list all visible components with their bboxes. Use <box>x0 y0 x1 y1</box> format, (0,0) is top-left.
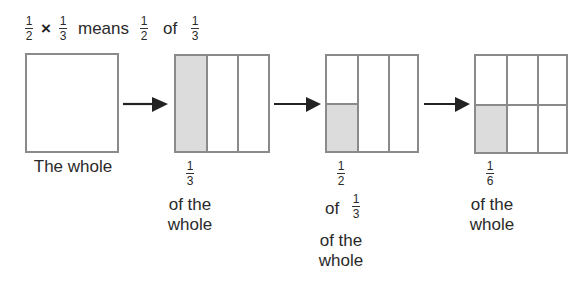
divider <box>357 56 359 151</box>
panel-half-of-third-inner-fraction: 1 3 <box>352 193 360 220</box>
divider <box>388 56 390 151</box>
denominator: 2 <box>141 30 148 42</box>
divider <box>206 56 208 151</box>
numerator: 1 <box>192 15 199 27</box>
arrow-right-icon <box>273 96 323 114</box>
title-word-means: means <box>78 20 129 38</box>
title-fraction-one-third: 1 3 <box>59 15 67 42</box>
panel-one-sixth-square <box>474 54 568 154</box>
divider <box>537 56 539 152</box>
numerator: 1 <box>60 15 67 27</box>
numerator: 1 <box>187 160 194 172</box>
shaded-sixth <box>476 106 506 152</box>
panel-one-third-label-line1: of the <box>160 195 220 215</box>
numerator: 1 <box>26 15 33 27</box>
panel-whole-label: The whole <box>30 157 116 177</box>
denominator: 3 <box>353 208 360 220</box>
divider <box>237 56 239 151</box>
panel-one-third-label-line2: whole <box>160 215 220 235</box>
numerator: 1 <box>141 15 148 27</box>
panel-one-sixth-label-line1: of the <box>462 195 522 215</box>
arrow-right-icon <box>122 96 170 114</box>
shaded-third <box>176 56 206 151</box>
panel-half-of-third-square <box>325 54 419 153</box>
panel-half-of-third-fraction: 1 2 <box>337 160 345 187</box>
panel-half-of-third-label-line2: whole <box>311 251 371 271</box>
panel-one-sixth-fraction: 1 6 <box>486 160 494 187</box>
panel-one-sixth-label-line2: whole <box>462 215 522 235</box>
denominator: 2 <box>26 30 33 42</box>
title-fraction-one-half: 1 2 <box>25 15 33 42</box>
title-fraction-one-third-2: 1 3 <box>191 15 199 42</box>
panel-one-third-square <box>174 54 270 153</box>
panel-half-of-third-label-line1: of the <box>311 231 371 251</box>
title-word-of: of <box>163 20 177 38</box>
panel-one-third-fraction: 1 3 <box>186 160 194 187</box>
denominator: 3 <box>60 30 67 42</box>
arrow-right-icon <box>423 96 473 114</box>
shaded-half-of-third <box>327 105 357 151</box>
denominator: 2 <box>338 175 345 187</box>
numerator: 1 <box>353 193 360 205</box>
title-fraction-one-half-2: 1 2 <box>140 15 148 42</box>
denominator: 6 <box>487 175 494 187</box>
divider <box>476 104 566 106</box>
divider <box>506 56 508 152</box>
divider <box>327 103 358 105</box>
numerator: 1 <box>338 160 345 172</box>
denominator: 3 <box>187 175 194 187</box>
numerator: 1 <box>487 160 494 172</box>
denominator: 3 <box>192 30 199 42</box>
panel-half-of-third-of: of <box>325 200 339 218</box>
multiply-sign: × <box>41 20 51 38</box>
panel-whole-square <box>25 53 119 153</box>
